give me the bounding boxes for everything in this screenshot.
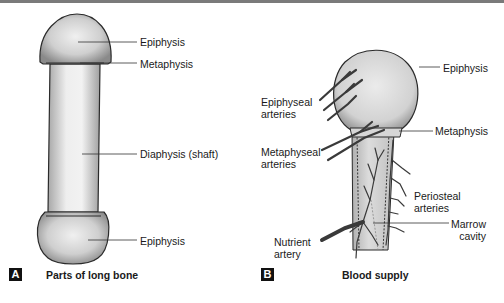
label-epiphysis-bottom: Epiphysis bbox=[140, 235, 185, 247]
label-periosteal-arteries-1: Periosteal bbox=[414, 190, 461, 202]
label-periosteal-arteries-2: arteries bbox=[414, 202, 449, 214]
label-metaphysis: Metaphysis bbox=[140, 58, 193, 70]
panel-a-badge: A bbox=[9, 268, 22, 281]
label-nutrient-artery-2: artery bbox=[274, 248, 301, 260]
label-marrow-cavity-2: cavity bbox=[444, 230, 486, 242]
panel-b-caption: Blood supply bbox=[342, 269, 409, 281]
label-b-metaphysis: Metaphysis bbox=[435, 125, 488, 137]
label-epiphyseal-arteries-1: Epiphyseal bbox=[261, 96, 312, 108]
panel-b-badge: B bbox=[261, 268, 274, 281]
blood-supply-bone bbox=[320, 50, 449, 258]
label-metaphyseal-arteries-1: Metaphyseal bbox=[261, 146, 321, 158]
long-bone bbox=[37, 14, 137, 264]
label-nutrient-artery-1: Nutrient bbox=[274, 236, 311, 248]
bone-diagram bbox=[0, 0, 504, 303]
label-b-epiphysis: Epiphysis bbox=[443, 62, 488, 74]
label-marrow-cavity-1: Marrow bbox=[444, 218, 486, 230]
label-diaphysis: Diaphysis (shaft) bbox=[140, 148, 218, 160]
label-epiphysis-top: Epiphysis bbox=[140, 36, 185, 48]
panel-a-caption: Parts of long bone bbox=[46, 269, 138, 281]
label-metaphyseal-arteries-2: arteries bbox=[261, 158, 296, 170]
label-epiphyseal-arteries-2: arteries bbox=[261, 108, 296, 120]
